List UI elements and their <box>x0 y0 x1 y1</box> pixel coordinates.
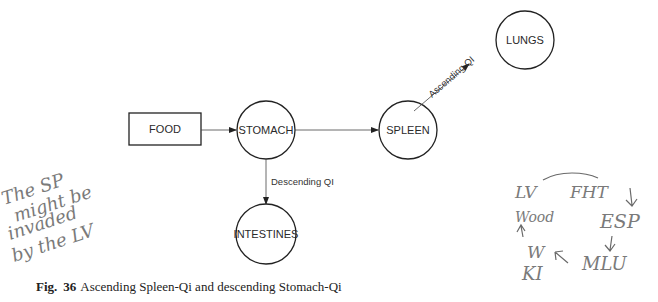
hand-arrow-down-1 <box>626 188 637 206</box>
caption-fig-number: 36 <box>63 279 76 294</box>
hand-lv: LV <box>514 182 538 202</box>
diagram-canvas: FOOD STOMACH SPLEEN Ascending QI LUNGS D… <box>0 0 658 302</box>
caption-text: Ascending Spleen-Qi and descending Stoma… <box>80 279 341 294</box>
node-stomach: STOMACH <box>237 101 295 159</box>
hand-arrow-down-2 <box>605 236 615 251</box>
node-food: FOOD <box>129 113 201 145</box>
node-spleen: SPLEEN <box>379 101 437 159</box>
hand-arrow-mlu-w <box>555 251 568 263</box>
caption-fig-label: Fig. <box>36 279 57 294</box>
hand-mlu: MLU <box>581 253 627 274</box>
node-stomach-label: STOMACH <box>239 124 294 136</box>
hand-fht: FHT <box>569 182 610 202</box>
edge-label-ascending-qi: Ascending QI <box>426 54 476 100</box>
hand-arrow-up <box>517 225 525 237</box>
node-intestines: INTESTINES <box>234 204 299 264</box>
hand-esp: ESP <box>599 210 641 232</box>
handwritten-note-left: The SP might be invaded by the LV <box>0 169 98 266</box>
node-intestines-label: INTESTINES <box>234 228 299 240</box>
node-lungs: LUNGS <box>496 11 554 69</box>
node-lungs-label: LUNGS <box>506 34 544 46</box>
figure-caption: Fig.36Ascending Spleen-Qi and descending… <box>36 279 342 295</box>
node-food-label: FOOD <box>149 123 181 135</box>
hand-w: W <box>527 242 546 262</box>
edge-label-descending-qi: Descending QI <box>271 176 334 187</box>
handwritten-cycle-right: LV FHT Wood ESP W KI MLU <box>514 173 641 284</box>
hand-ki: KI <box>521 263 543 284</box>
hand-arrow-lv-fht <box>543 173 598 180</box>
node-spleen-label: SPLEEN <box>386 124 429 136</box>
hand-wood: Wood <box>515 209 554 225</box>
